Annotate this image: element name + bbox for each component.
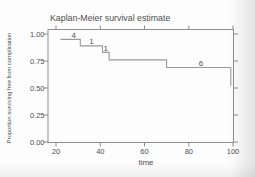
x-tick-label: 80: [185, 147, 193, 156]
censored-count-label: 6: [199, 59, 204, 68]
y-tick-label: 1.00: [30, 30, 45, 39]
km-chart-figure: Kaplan-Meier survival estimate Proportio…: [0, 0, 255, 177]
plot-frame: [48, 30, 234, 143]
y-tick-label: 0.50: [30, 84, 45, 93]
chart-title: Kaplan-Meier survival estimate: [50, 13, 170, 23]
x-tick-label: 60: [140, 147, 148, 156]
y-axis-label: Proportion surviving free from complicat…: [5, 32, 12, 144]
censored-count-label: 1: [104, 44, 109, 53]
x-axis-label: time: [138, 158, 154, 167]
x-tick-label: 100: [227, 147, 240, 156]
survival-curve: [60, 39, 230, 85]
censored-count-labels: 4116: [71, 31, 203, 68]
x-tick-label: 20: [52, 147, 60, 156]
x-tick-label: 40: [96, 147, 104, 156]
censored-count-label: 1: [89, 37, 94, 46]
censored-count-label: 4: [71, 31, 76, 40]
y-tick-label: 0.75: [30, 57, 45, 66]
axis-ticks: [44, 26, 239, 147]
y-tick-label: 0.25: [30, 111, 45, 120]
km-chart: Kaplan-Meier survival estimate Proportio…: [0, 0, 255, 177]
y-tick-label: 0.00: [30, 138, 45, 147]
axis-tick-labels: 204060801000.000.250.500.751.00: [30, 30, 239, 156]
